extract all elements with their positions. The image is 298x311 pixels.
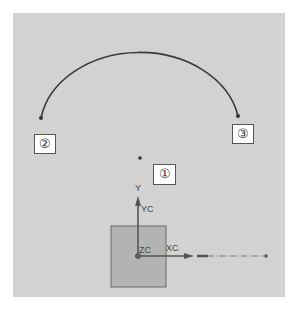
xc-arrow-icon — [184, 253, 194, 259]
point-2-label: ② — [34, 134, 56, 154]
arc-curve[interactable] — [41, 52, 238, 118]
zc-axis-label: ZC — [139, 245, 151, 255]
y-tip-label: Y — [135, 183, 141, 193]
point-1-label: ① — [153, 164, 176, 185]
sketch-scene — [0, 0, 298, 311]
x-extension-end-point[interactable] — [264, 254, 268, 258]
center-point[interactable] — [138, 156, 142, 160]
arc-end-point[interactable] — [236, 114, 240, 118]
yc-axis-label: YC — [141, 204, 154, 214]
xc-axis-label: XC — [166, 243, 179, 253]
point-3-label: ③ — [232, 124, 254, 144]
arc-start-point[interactable] — [39, 116, 43, 120]
